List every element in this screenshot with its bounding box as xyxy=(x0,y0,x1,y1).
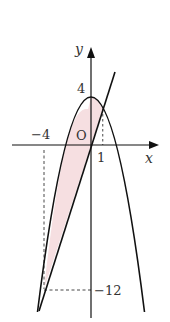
origin-label: O xyxy=(76,128,87,143)
y-axis-label: y xyxy=(74,41,84,57)
shaded-region xyxy=(44,97,103,289)
x-axis-arrow-icon xyxy=(149,141,159,149)
tick-label-y-4: 4 xyxy=(77,81,85,96)
y-axis-arrow-icon xyxy=(87,47,95,58)
graph-figure: y x O 4 −4 1 −12 xyxy=(0,0,170,322)
tick-label-y-neg12: −12 xyxy=(94,283,121,298)
line-y-3x xyxy=(39,72,115,311)
x-axis-label: x xyxy=(145,150,153,166)
tick-label-x-1: 1 xyxy=(97,150,105,165)
tick-label-x-neg4: −4 xyxy=(31,127,50,142)
